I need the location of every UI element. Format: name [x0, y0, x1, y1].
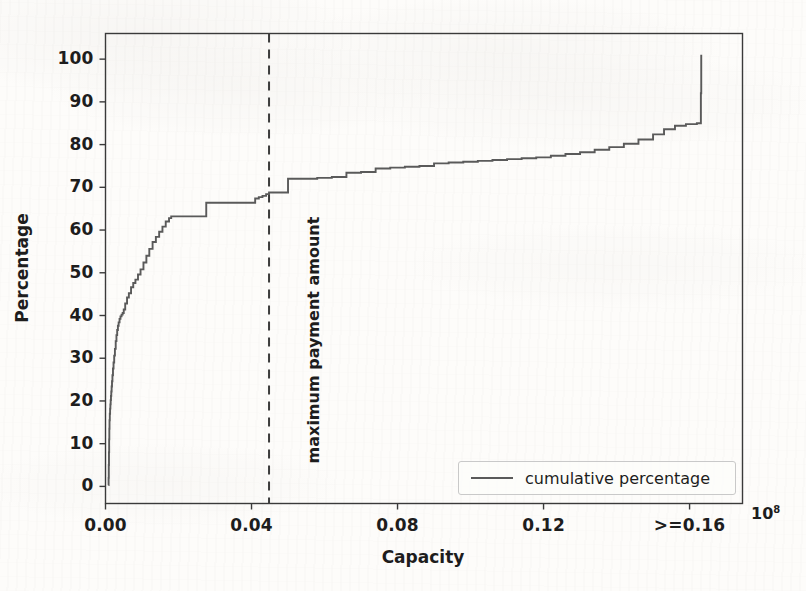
- y-tick-label: 100: [57, 48, 93, 68]
- x-axis-label: Capacity: [382, 547, 465, 567]
- x-tick-label: 0.04: [230, 515, 273, 535]
- axes-frame: [106, 34, 743, 504]
- chart-legend: cumulative percentage: [458, 461, 736, 495]
- y-tick-label: 90: [69, 91, 93, 111]
- y-tick-label: 50: [69, 262, 93, 282]
- plot-canvas: [0, 0, 806, 591]
- chart-figure: 0102030405060708090100 0.000.040.080.12>…: [0, 0, 806, 591]
- y-tick-label: 70: [69, 176, 93, 196]
- y-tick-label: 60: [69, 219, 93, 239]
- x-exponent-base: 10: [751, 504, 773, 523]
- y-tick-label: 0: [81, 475, 93, 495]
- y-axis-label: Percentage: [12, 213, 32, 322]
- series-line-cumulative-percentage: [108, 55, 701, 485]
- y-tick-label: 80: [69, 134, 93, 154]
- legend-swatch-cumulative-percentage: [471, 477, 513, 479]
- x-exponent-power: 8: [773, 504, 780, 515]
- y-tick-label: 20: [69, 390, 93, 410]
- x-tick-label: 0.00: [84, 515, 127, 535]
- y-tick-marks: [100, 59, 106, 486]
- x-axis-exponent-label: 108: [751, 504, 780, 523]
- legend-label-cumulative-percentage: cumulative percentage: [525, 469, 710, 488]
- y-tick-label: 40: [69, 305, 93, 325]
- x-tick-label: 0.08: [376, 515, 419, 535]
- y-tick-label: 10: [69, 433, 93, 453]
- x-tick-label: 0.12: [522, 515, 565, 535]
- annotation-label-maximum-payment-amount: maximum payment amount: [304, 217, 323, 464]
- y-tick-label: 30: [69, 347, 93, 367]
- x-tick-label: >=0.16: [654, 515, 726, 535]
- x-tick-marks: [106, 504, 690, 510]
